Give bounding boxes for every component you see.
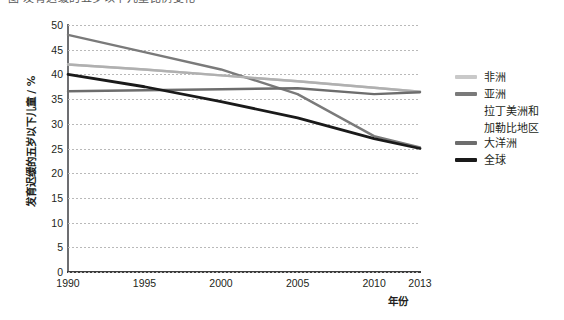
plot-area	[68, 25, 420, 272]
legend-item[interactable]: 拉丁美洲和	[455, 104, 563, 119]
x-tick-label: 1990	[56, 277, 79, 289]
y-tick-label: 35	[51, 94, 63, 104]
y-tick-label: 5	[57, 242, 63, 252]
x-axis-title: 年份	[388, 293, 408, 308]
y-tick-label: 0	[57, 267, 63, 277]
x-tick-label: 2000	[209, 277, 232, 289]
y-tick-label: 10	[51, 218, 63, 228]
legend-swatch-icon	[455, 158, 477, 162]
x-tick-label: 2013	[408, 277, 431, 289]
gridline	[68, 272, 420, 273]
legend-label: 全球	[484, 153, 506, 168]
legend-label: 拉丁美洲和	[484, 104, 539, 119]
series-line-大洋洲	[68, 88, 420, 94]
y-tick-label: 40	[51, 69, 63, 79]
legend-label: 亚洲	[484, 87, 506, 102]
legend-label: 大洋洲	[484, 136, 517, 151]
legend-label-continuation: 加勒比地区	[484, 121, 563, 136]
y-axis-title: 发育迟缓的五岁以下儿童 / %	[23, 42, 38, 242]
y-axis-tick-labels: 05101520253035404550	[38, 25, 63, 272]
legend-swatch-icon	[455, 109, 477, 113]
y-tick-label: 50	[51, 20, 63, 30]
y-axis-title-box: 发育迟缓的五岁以下儿童 / %	[14, 30, 36, 270]
legend-item[interactable]: 非洲	[455, 70, 563, 85]
legend-swatch-icon	[455, 141, 477, 145]
chart-screenshot: 图 发育迟缓的五岁以下儿童比例变化 发育迟缓的五岁以下儿童 / % 051015…	[0, 0, 564, 320]
series-line-全球	[68, 74, 420, 148]
cropped-caption-text: 图 发育迟缓的五岁以下儿童比例变化	[8, 0, 564, 4]
x-tick-label: 2005	[286, 277, 309, 289]
y-tick-label: 45	[51, 45, 63, 55]
legend-label: 非洲	[484, 70, 506, 85]
y-tick-label: 20	[51, 168, 63, 178]
legend: 非洲亚洲拉丁美洲和加勒比地区大洋洲全球	[455, 70, 563, 170]
y-tick-label: 15	[51, 193, 63, 203]
x-tick-label: 2010	[362, 277, 385, 289]
legend-item[interactable]: 大洋洲	[455, 136, 563, 151]
x-tick-label: 1995	[133, 277, 156, 289]
y-tick-label: 25	[51, 144, 63, 154]
cropped-caption-strip: 图 发育迟缓的五岁以下儿童比例变化	[0, 0, 564, 11]
legend-swatch-icon	[455, 92, 477, 96]
series-lines	[68, 25, 420, 272]
y-tick-label: 30	[51, 119, 63, 129]
x-axis-tick-labels: 199019952000200520102013	[68, 277, 428, 291]
legend-item[interactable]: 全球	[455, 153, 563, 168]
legend-item[interactable]: 亚洲	[455, 87, 563, 102]
series-line-拉丁美洲和加勒比地区	[68, 65, 420, 92]
legend-swatch-icon	[455, 75, 477, 79]
